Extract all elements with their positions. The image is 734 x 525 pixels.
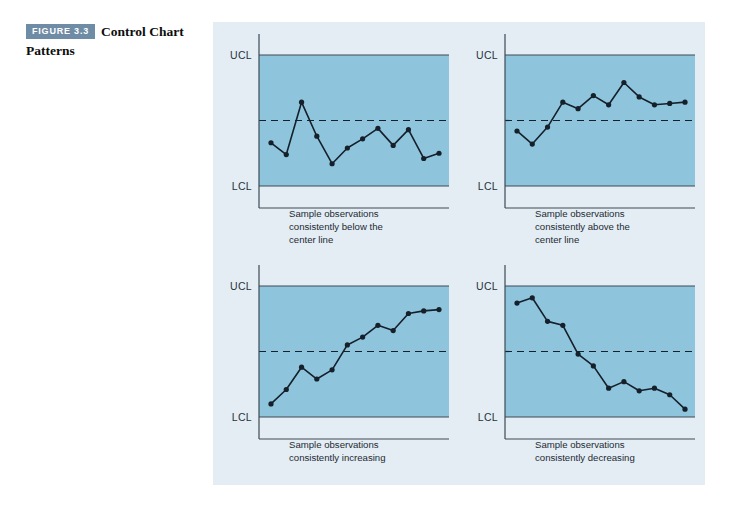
data-point xyxy=(621,379,626,384)
data-point xyxy=(591,93,596,98)
caption-line: consistently decreasing xyxy=(535,452,703,465)
chart-decreasing: UCLLCL Sample observations consistently … xyxy=(459,253,705,484)
data-point xyxy=(682,407,687,412)
data-point xyxy=(360,334,365,339)
data-point xyxy=(530,141,535,146)
data-point xyxy=(268,401,273,406)
data-point xyxy=(268,140,273,145)
data-point xyxy=(436,307,441,312)
chart-caption: Sample observations consistently increas… xyxy=(289,439,457,465)
caption-line: consistently increasing xyxy=(289,452,457,465)
data-point xyxy=(375,323,380,328)
data-point xyxy=(514,300,519,305)
data-point xyxy=(575,106,580,111)
data-point xyxy=(637,388,642,393)
data-point xyxy=(329,161,334,166)
figure-number-badge: FIGURE 3.3 xyxy=(26,24,95,39)
lcl-label: LCL xyxy=(232,411,252,423)
data-point xyxy=(421,156,426,161)
data-point xyxy=(345,145,350,150)
data-point xyxy=(652,386,657,391)
caption-line: consistently above the xyxy=(535,221,703,234)
data-point xyxy=(575,352,580,357)
data-point xyxy=(299,100,304,105)
data-point xyxy=(545,319,550,324)
figure-heading: FIGURE 3.3Control Chart Patterns xyxy=(26,22,206,60)
caption-line: center line xyxy=(535,234,703,247)
lcl-label: LCL xyxy=(232,180,252,192)
data-point xyxy=(514,128,519,133)
data-point xyxy=(436,151,441,156)
data-point xyxy=(652,102,657,107)
data-point xyxy=(329,367,334,372)
data-point xyxy=(406,127,411,132)
data-point xyxy=(667,392,672,397)
data-point xyxy=(299,365,304,370)
caption-line: Sample observations xyxy=(289,439,457,452)
data-point xyxy=(375,126,380,131)
data-point xyxy=(391,328,396,333)
data-point xyxy=(406,311,411,316)
data-point xyxy=(606,386,611,391)
data-point xyxy=(560,323,565,328)
caption-line: Sample observations xyxy=(289,208,457,221)
caption-line: Sample observations xyxy=(535,439,703,452)
data-point xyxy=(314,134,319,139)
chart-increasing: UCLLCL Sample observations consistently … xyxy=(213,253,459,484)
chart-caption: Sample observations consistently below t… xyxy=(289,208,457,247)
data-point xyxy=(391,143,396,148)
data-point xyxy=(621,80,626,85)
chart-caption: Sample observations consistently above t… xyxy=(535,208,703,247)
ucl-label: UCL xyxy=(476,49,498,61)
data-point xyxy=(360,136,365,141)
data-point xyxy=(284,387,289,392)
data-point xyxy=(606,102,611,107)
ucl-label: UCL xyxy=(230,49,252,61)
figure-panel: UCLLCL Sample observations consistently … xyxy=(213,22,705,485)
caption-line: consistently below the xyxy=(289,221,457,234)
data-point xyxy=(545,124,550,129)
data-point xyxy=(637,94,642,99)
lcl-label: LCL xyxy=(478,180,498,192)
data-point xyxy=(421,308,426,313)
ucl-label: UCL xyxy=(230,280,252,292)
ucl-label: UCL xyxy=(476,280,498,292)
data-point xyxy=(682,100,687,105)
data-point xyxy=(560,100,565,105)
chart-caption: Sample observations consistently decreas… xyxy=(535,439,703,465)
caption-line: Sample observations xyxy=(535,208,703,221)
caption-line: center line xyxy=(289,234,457,247)
data-point xyxy=(314,376,319,381)
data-point xyxy=(667,101,672,106)
data-point xyxy=(530,295,535,300)
chart-above-center-line: UCLLCL Sample observations consistently … xyxy=(459,22,705,253)
data-point xyxy=(284,152,289,157)
data-point xyxy=(591,363,596,368)
lcl-label: LCL xyxy=(478,411,498,423)
data-point xyxy=(345,342,350,347)
chart-below-center-line: UCLLCL Sample observations consistently … xyxy=(213,22,459,253)
